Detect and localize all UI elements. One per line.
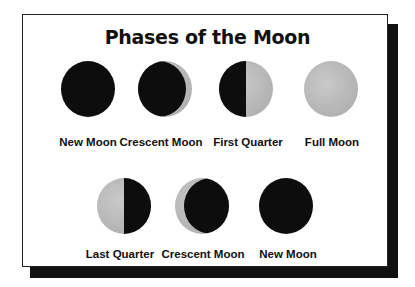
label-new-moon-2: New Moon	[259, 248, 317, 260]
moon-new-2	[259, 178, 313, 234]
moon-first-quarter	[219, 61, 273, 117]
moon-crescent-2	[175, 178, 229, 234]
moon-crescent-2-shadow	[184, 178, 229, 234]
moon-last-quarter	[97, 178, 151, 234]
label-crescent-moon-1: Crescent Moon	[119, 136, 202, 148]
label-last-quarter: Last Quarter	[86, 248, 154, 260]
label-full-moon: Full Moon	[305, 136, 359, 148]
label-first-quarter: First Quarter	[213, 136, 283, 148]
moon-full	[304, 61, 358, 117]
moon-new-1	[61, 61, 115, 117]
moon-crescent-shadow	[138, 61, 186, 117]
moon-first-quarter-shadow	[219, 61, 246, 117]
diagram-title: Phases of the Moon	[0, 26, 415, 48]
moon-crescent-1	[138, 61, 192, 117]
label-new-moon-1: New Moon	[59, 136, 117, 148]
moon-last-quarter-shadow	[124, 178, 151, 234]
label-crescent-moon-2: Crescent Moon	[161, 248, 244, 260]
